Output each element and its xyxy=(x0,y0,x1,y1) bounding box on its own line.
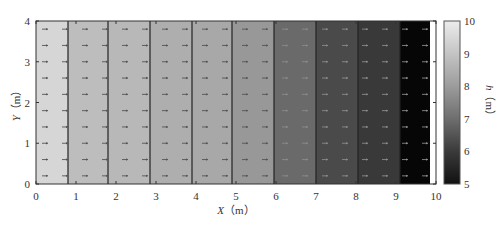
x-tick-label: 10 xyxy=(431,190,443,202)
y-tick-label: 3 xyxy=(25,56,31,68)
colorbar-tick-label: 9 xyxy=(464,48,470,60)
y-axis-label: Y（m） xyxy=(10,85,22,122)
x-tick-label: 7 xyxy=(313,190,319,202)
colorbar-tick-label: 10 xyxy=(464,15,476,27)
y-tick-label: 2 xyxy=(25,97,31,109)
colorbar-tick-label: 8 xyxy=(464,80,470,92)
x-tick-label: 6 xyxy=(273,190,279,202)
x-tick-label: 3 xyxy=(153,190,159,202)
heatmap-band xyxy=(274,21,316,184)
colorbar-tick-label: 7 xyxy=(464,113,470,125)
colorbar xyxy=(444,21,460,184)
x-tick-label: 4 xyxy=(193,190,199,202)
x-tick-label: 9 xyxy=(393,190,399,202)
y-tick-label: 0 xyxy=(25,178,31,190)
x-tick-label: 2 xyxy=(113,190,119,202)
y-tick-label: 4 xyxy=(25,15,31,27)
y-tick-label: 1 xyxy=(25,137,31,149)
x-axis-label: X（m） xyxy=(216,204,254,216)
colorbar-tick-label: 5 xyxy=(464,178,470,190)
x-tick-label: 0 xyxy=(33,190,39,202)
heatmap-figure: 012345678910 01234 X（m） Y（m） 5678910 h（m… xyxy=(0,0,503,229)
colorbar-tick-label: 6 xyxy=(464,145,470,157)
colorbar-ticks: 5678910 xyxy=(464,15,476,190)
x-tick-label: 1 xyxy=(73,190,79,202)
heatmap-bands xyxy=(36,21,436,184)
x-tick-label: 5 xyxy=(233,190,239,202)
colorbar-label: h（m） xyxy=(484,85,496,121)
x-tick-label: 8 xyxy=(353,190,359,202)
